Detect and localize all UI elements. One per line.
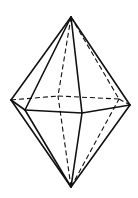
- visible-edge-top_apex-left: [11, 17, 71, 100]
- bipyramid-figure: [0, 0, 138, 198]
- hexagonal-bipyramid-diagram: [0, 0, 138, 198]
- visible-edge-left-front_left: [11, 100, 25, 110]
- hidden-edge-bottom_apex-back_left: [58, 96, 71, 187]
- visible-edge-bottom_apex-left: [11, 100, 71, 187]
- visible-edge-bottom_apex-front_left: [25, 110, 71, 187]
- visible-edge-front_left-front_mid: [25, 110, 82, 113]
- visible-edges: [11, 17, 130, 187]
- visible-edge-front_mid-right: [82, 105, 130, 113]
- hidden-edge-left-back_left: [11, 96, 58, 100]
- visible-edge-top_apex-front_left: [25, 17, 71, 110]
- hidden-edge-back_left-back_right: [58, 96, 119, 99]
- visible-edge-bottom_apex-right: [71, 105, 130, 187]
